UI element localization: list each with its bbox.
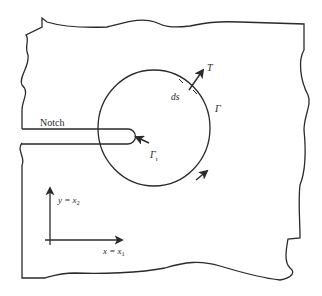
- notch-label: Notch: [40, 117, 64, 128]
- notch: [22, 129, 136, 144]
- contour-direction-arrow: [196, 171, 207, 180]
- x-axis-label: x = x1: [102, 246, 125, 257]
- tip-contour-label: Γt: [149, 149, 158, 163]
- ds-tick-1: [179, 79, 183, 83]
- body-outline: [20, 18, 309, 280]
- y-axis-label: y = x2: [57, 195, 80, 206]
- contour-gamma-label: Γ: [214, 103, 221, 114]
- contour-gamma: [98, 70, 210, 186]
- traction-arrow: [189, 70, 203, 90]
- ds-label: ds: [171, 92, 180, 102]
- tip-contour-arrow: [136, 137, 149, 143]
- j-integral-diagram: Notch T ds Γ Γt y = x2 x = x1: [0, 0, 322, 296]
- traction-label: T: [207, 62, 214, 73]
